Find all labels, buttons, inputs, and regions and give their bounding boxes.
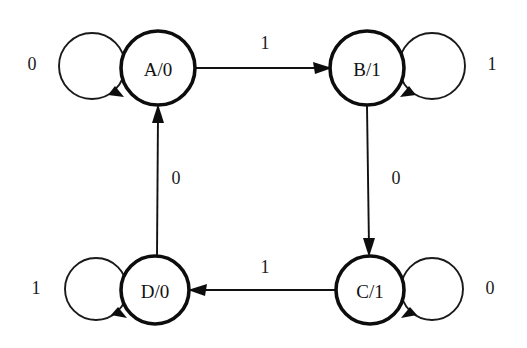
state-node-b-label: B/1: [353, 59, 380, 80]
self-loop-c-arrowhead: [401, 307, 417, 318]
self-loop-b-arrowhead: [400, 86, 416, 97]
transition-b-to-c-label: 0: [392, 168, 401, 188]
state-transition-diagram: A/0 B/1 C/1 D/0 0 1 0 1 1 0 1: [0, 0, 527, 348]
transition-b-to-c[interactable]: [363, 106, 375, 257]
self-loop-a-arrowhead: [108, 86, 124, 97]
state-node-d[interactable]: D/0: [121, 256, 189, 324]
transition-d-to-a-line: [157, 114, 158, 256]
transition-d-to-a-arrowhead: [152, 104, 164, 123]
transition-d-to-a-label: 0: [172, 168, 181, 188]
self-loop-c-label: 0: [486, 278, 495, 298]
state-node-d-label: D/0: [141, 281, 170, 302]
state-node-c[interactable]: C/1: [336, 256, 404, 324]
self-loop-a[interactable]: [59, 33, 125, 99]
state-node-c-label: C/1: [356, 281, 383, 302]
state-diagram-canvas: A/0 B/1 C/1 D/0 0 1 0 1 1 0 1: [0, 0, 527, 348]
transition-c-to-d-arrowhead: [188, 284, 207, 296]
transition-a-to-b[interactable]: [196, 62, 332, 74]
transition-d-to-a[interactable]: [152, 104, 164, 256]
transition-b-to-c-arrowhead: [363, 238, 375, 257]
state-node-b[interactable]: B/1: [330, 31, 404, 105]
transition-a-to-b-label: 1: [261, 33, 270, 53]
transition-c-to-d[interactable]: [188, 284, 335, 296]
self-loop-b-label: 1: [488, 54, 497, 74]
self-loop-d-label: 1: [32, 278, 41, 298]
self-loop-a-label: 0: [28, 54, 37, 74]
self-loop-d[interactable]: [65, 258, 127, 320]
transition-b-to-c-line: [367, 106, 369, 247]
transition-c-to-d-label: 1: [261, 257, 270, 277]
state-node-a[interactable]: A/0: [121, 31, 195, 105]
self-loop-b[interactable]: [399, 33, 465, 99]
self-loop-c[interactable]: [401, 258, 463, 320]
state-node-group: A/0 B/1 C/1 D/0: [121, 31, 404, 324]
state-node-a-label: A/0: [144, 59, 173, 80]
